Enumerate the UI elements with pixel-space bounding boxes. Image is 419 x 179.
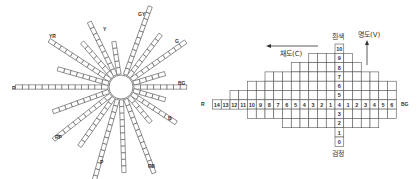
grid-cells: 1098765141312111098765432141234563210 <box>213 44 397 146</box>
grid-cell <box>361 109 370 118</box>
grid-cell <box>353 118 362 127</box>
grid-cell <box>300 109 309 118</box>
chroma-number: 1 <box>347 102 350 108</box>
grid-cell <box>300 81 309 90</box>
grid-cell <box>361 81 370 90</box>
grid-cell <box>326 118 335 127</box>
grid-cell <box>291 63 300 72</box>
grid-cell <box>291 81 300 90</box>
grid-cell <box>370 91 379 100</box>
grid-cell <box>344 91 353 100</box>
grid-cell <box>274 72 283 81</box>
chroma-number: 7 <box>277 102 280 108</box>
grid-cell <box>283 81 292 90</box>
chroma-number: 2 <box>355 102 358 108</box>
chroma-number: 3 <box>312 102 315 108</box>
grid-cell <box>370 118 379 127</box>
grid-cell <box>326 81 335 90</box>
value-arrow <box>365 40 369 65</box>
value-number: 6 <box>338 83 341 89</box>
chroma-number: 6 <box>390 102 393 108</box>
grid-cell <box>353 63 362 72</box>
grid-cell <box>300 72 309 81</box>
grid-cell <box>283 91 292 100</box>
value-number: 3 <box>338 111 341 117</box>
chroma-number: 8 <box>268 102 271 108</box>
munsell-value-chroma-grid: 1098765141312111098765432141234563210 채도… <box>0 0 419 179</box>
grid-cell <box>344 53 353 62</box>
grid-cell <box>318 118 327 127</box>
grid-cell <box>265 109 274 118</box>
grid-cell <box>326 63 335 72</box>
value-number: 1 <box>338 130 341 136</box>
grid-cell <box>283 109 292 118</box>
grid-cell <box>309 72 318 81</box>
chroma-axis-label: 채도(C) <box>280 49 303 58</box>
grid-cell <box>265 72 274 81</box>
grid-cell <box>300 91 309 100</box>
grid-cell <box>326 53 335 62</box>
value-axis-label: 명도(V) <box>358 30 381 39</box>
black-label: 검정 <box>332 149 344 158</box>
grid-cell <box>309 118 318 127</box>
grid-cell <box>344 81 353 90</box>
chroma-number: 14 <box>214 102 221 108</box>
grid-cell <box>326 72 335 81</box>
grid-cell <box>326 109 335 118</box>
grid-cell <box>388 81 397 90</box>
grid-cell <box>361 118 370 127</box>
value-number: 10 <box>336 46 342 52</box>
grid-cell <box>379 91 388 100</box>
chroma-number: 9 <box>259 102 262 108</box>
grid-cell <box>248 81 257 90</box>
grid-cell <box>256 109 265 118</box>
grid-cell <box>370 81 379 90</box>
value-number: 9 <box>338 55 341 61</box>
chroma-number: 5 <box>382 102 385 108</box>
chroma-number: 3 <box>364 102 367 108</box>
value-number: 0 <box>338 139 341 145</box>
value-number: 7 <box>338 74 341 80</box>
grid-cell <box>239 91 248 100</box>
chroma-number: 13 <box>223 102 229 108</box>
left-hue-label: R <box>201 101 205 107</box>
grid-cell <box>291 109 300 118</box>
chroma-number: 2 <box>320 102 323 108</box>
grid-cell <box>256 91 265 100</box>
grid-cell <box>274 109 283 118</box>
grid-cell <box>291 91 300 100</box>
grid-cell <box>309 81 318 90</box>
chroma-arrow <box>266 44 318 48</box>
chroma-number: 11 <box>240 102 246 108</box>
grid-cell <box>291 72 300 81</box>
grid-cell <box>318 81 327 90</box>
chroma-number: 10 <box>249 102 255 108</box>
grid-cell <box>291 118 300 127</box>
chroma-number: 1 <box>329 102 332 108</box>
grid-cell <box>274 81 283 90</box>
grid-cell <box>379 81 388 90</box>
grid-cell <box>388 91 397 100</box>
grid-cell <box>283 118 292 127</box>
grid-cell <box>274 91 283 100</box>
grid-cell <box>265 81 274 90</box>
grid-cell <box>353 72 362 81</box>
grid-cell <box>300 63 309 72</box>
grid-cell <box>248 91 257 100</box>
grid-cell <box>353 109 362 118</box>
grid-cell <box>318 72 327 81</box>
grid-cell <box>309 109 318 118</box>
grid-cell <box>344 72 353 81</box>
grid-cell <box>344 118 353 127</box>
grid-cell <box>309 91 318 100</box>
grid-cell <box>344 63 353 72</box>
grid-cell <box>318 53 327 62</box>
grid-cell <box>370 109 379 118</box>
chroma-number: 6 <box>285 102 288 108</box>
value-number: 8 <box>338 65 341 71</box>
grid-cell <box>361 91 370 100</box>
white-label: 흰색 <box>332 32 344 41</box>
grid-cell <box>256 81 265 90</box>
grid-cell <box>230 91 239 100</box>
grid-cell <box>326 91 335 100</box>
